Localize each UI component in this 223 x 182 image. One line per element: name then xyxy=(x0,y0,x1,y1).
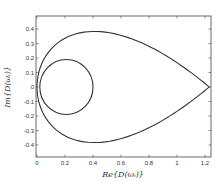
y-tick-label: 0.1 xyxy=(26,70,35,76)
y-tick-label: 0.4 xyxy=(26,26,35,32)
axes-box xyxy=(36,16,211,157)
x-tick-label: 1 xyxy=(175,160,179,166)
y-tick-label: 0 xyxy=(31,84,35,90)
outer-contour-curve xyxy=(37,31,209,142)
y-tick-label: -0.2 xyxy=(24,113,35,119)
plot-area xyxy=(37,31,209,142)
y-tick-label: -0.1 xyxy=(24,99,35,105)
x-axis-label: Re{D(ωᵢ)} xyxy=(101,170,144,179)
x-tick-label: 0 xyxy=(35,160,39,166)
nyquist-chart: 00.20.40.60.811.20.40.30.20.10-0.1-0.2-0… xyxy=(0,0,223,182)
axes: 00.20.40.60.811.20.40.30.20.10-0.1-0.2-0… xyxy=(24,16,211,166)
y-tick-label: 0.2 xyxy=(26,55,35,61)
x-tick-label: 0.4 xyxy=(89,160,98,166)
y-tick-label: -0.4 xyxy=(24,142,35,148)
y-axis-label: Im{D(ωᵢ)} xyxy=(3,66,12,109)
x-tick-label: 0.8 xyxy=(145,160,154,166)
x-tick-label: 0.2 xyxy=(61,160,70,166)
x-tick-label: 0.6 xyxy=(117,160,126,166)
inner-circle-curve xyxy=(40,59,93,114)
x-tick-label: 1.2 xyxy=(201,160,210,166)
y-tick-label: 0.3 xyxy=(26,41,35,47)
y-tick-label: -0.3 xyxy=(24,128,35,134)
